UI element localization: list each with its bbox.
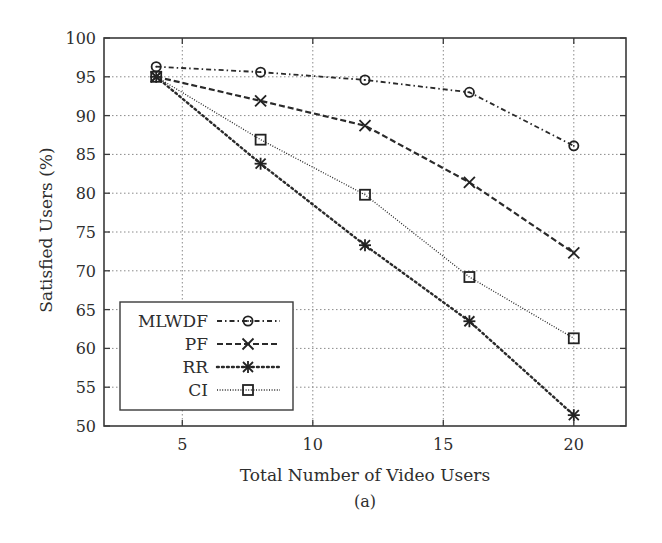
- series-pf: [151, 71, 580, 258]
- y-tick-label: 100: [65, 29, 96, 48]
- x-tick-label: 5: [177, 435, 187, 454]
- legend: MLWDFPFRRCI: [120, 302, 293, 410]
- data-point-x-icon: [568, 247, 579, 258]
- data-point-x-icon: [464, 177, 475, 188]
- data-point-square-icon: [256, 135, 266, 145]
- data-point-asterisk-icon: [359, 239, 371, 251]
- legend-label: PF: [185, 334, 208, 354]
- y-axis-label: Satisfied Users (%): [36, 147, 56, 312]
- figure-caption: (a): [354, 492, 376, 511]
- y-tick-label: 70: [76, 262, 96, 281]
- y-tick-label: 85: [76, 145, 96, 164]
- y-tick-label: 60: [76, 339, 96, 358]
- y-tick-label: 80: [76, 184, 96, 203]
- data-point-asterisk-icon: [255, 158, 267, 170]
- y-tick-label: 55: [76, 378, 96, 397]
- data-point-circle-icon: [465, 88, 474, 97]
- y-tick-label: 95: [76, 68, 96, 87]
- x-axis-label: Total Number of Video Users: [240, 465, 490, 485]
- line-chart: 510152050556065707580859095100 MLWDFPFRR…: [0, 0, 662, 543]
- y-tick-label: 90: [76, 107, 96, 126]
- legend-label: MLWDF: [138, 311, 208, 331]
- series-mlwdf: [152, 62, 579, 150]
- series-line: [156, 77, 574, 253]
- data-point-asterisk-icon: [463, 315, 475, 327]
- asterisk-marker-icon: [242, 361, 254, 373]
- data-point-square-icon: [464, 272, 474, 282]
- x-tick-label: 10: [303, 435, 323, 454]
- y-tick-label: 65: [76, 301, 96, 320]
- x-tick-label: 15: [433, 435, 453, 454]
- y-tick-label: 75: [76, 223, 96, 242]
- legend-label: CI: [188, 380, 208, 400]
- chart-canvas: 510152050556065707580859095100 MLWDFPFRR…: [0, 0, 662, 543]
- data-point-asterisk-icon: [568, 409, 580, 421]
- series-line: [156, 67, 574, 146]
- x-tick-label: 20: [564, 435, 584, 454]
- legend-label: RR: [182, 357, 209, 377]
- y-tick-label: 50: [76, 417, 96, 436]
